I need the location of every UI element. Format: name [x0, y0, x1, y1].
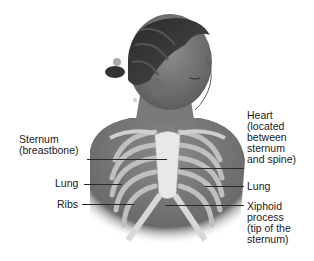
- leader-line-ribs: [82, 204, 134, 205]
- sternum-bone: [155, 132, 180, 199]
- leader-line-sternum: [87, 159, 167, 160]
- label-sternum: Sternum (breastbone): [19, 134, 79, 156]
- label-heart: Heart (located between sternum and spine…: [247, 110, 296, 165]
- head: [105, 14, 212, 110]
- leader-line-xiphoid: [165, 205, 244, 206]
- label-ribs: Ribs: [57, 199, 78, 210]
- label-lung-right: Lung: [247, 181, 270, 192]
- label-xiphoid: Xiphoid process (tip of the sternum): [247, 201, 291, 245]
- leader-line-lung-left: [84, 184, 122, 185]
- label-lung-left: Lung: [55, 178, 78, 189]
- leader-line-heart: [180, 168, 244, 169]
- leader-line-lung-right: [205, 186, 244, 187]
